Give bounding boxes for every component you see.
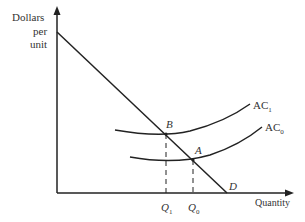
x-axis-arrow-icon <box>285 190 294 197</box>
ac1-curve <box>115 104 250 134</box>
y-axis-arrow-icon <box>54 6 61 15</box>
demand-label: D <box>228 180 237 192</box>
y-axis-label-line1: Dollars <box>12 11 44 23</box>
point-a-label: A <box>194 144 202 156</box>
demand-curve <box>57 32 227 193</box>
x-axis-label: Quantity <box>255 197 290 208</box>
q1-label: Q1 <box>161 201 173 216</box>
point-b-label: B <box>166 118 173 130</box>
y-axis-label-line3: unit <box>30 38 47 50</box>
q0-label: Q0 <box>188 201 200 216</box>
ac1-label: AC1 <box>253 99 272 114</box>
ac0-label: AC0 <box>265 121 284 136</box>
y-axis-label-line2: per <box>33 25 47 37</box>
average-cost-diagram: Dollars per unit Quantity D AC1 AC0 B A … <box>0 0 305 222</box>
